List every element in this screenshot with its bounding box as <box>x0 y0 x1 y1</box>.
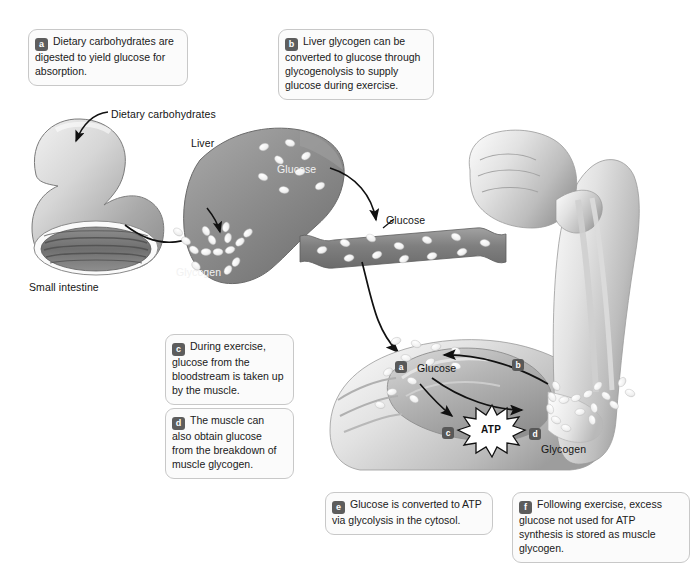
label-liver-glycogen: Glycogen <box>176 266 221 278</box>
art-marker-c[interactable]: c <box>442 427 454 439</box>
label-atp: ATP <box>481 424 501 435</box>
blood-vessel-illustration <box>300 219 506 268</box>
figure-canvas: aDietary carbohydrates are digested to y… <box>0 0 700 563</box>
art-marker-a[interactable]: a <box>395 361 407 373</box>
callout-d[interactable]: dThe muscle can also obtain glucose from… <box>165 408 294 479</box>
callout-b[interactable]: bLiver glycogen can be converted to gluc… <box>278 29 434 100</box>
callout-badge-a: a <box>35 38 48 51</box>
callout-badge-b: b <box>285 38 298 51</box>
arrow-vessel-to-muscle <box>362 262 398 352</box>
callout-f[interactable]: fFollowing exercise, excess glucose not … <box>512 492 690 563</box>
callout-text-f: Following exercise, excess glucose not u… <box>519 498 662 554</box>
label-liver-glucose: Glucose <box>277 163 316 175</box>
label-dietary-carbohydrates: Dietary carbohydrates <box>111 108 216 120</box>
callout-a[interactable]: aDietary carbohydrates are digested to y… <box>28 29 188 86</box>
art-marker-d[interactable]: d <box>529 428 541 440</box>
label-blood-glucose: Glucose <box>386 214 425 226</box>
callout-badge-d: d <box>172 417 185 430</box>
label-liver: Liver <box>191 137 214 149</box>
art-marker-b[interactable]: b <box>512 359 524 371</box>
callout-text-b: Liver glycogen can be converted to gluco… <box>285 35 420 91</box>
callout-e[interactable]: eGlucose is converted to ATP via glycoly… <box>325 492 493 535</box>
small-intestine-illustration <box>32 119 164 275</box>
callout-text-e: Glucose is converted to ATP via glycolys… <box>332 498 482 526</box>
callout-badge-e: e <box>332 501 345 514</box>
label-small-intestine: Small intestine <box>29 281 99 293</box>
callout-badge-f: f <box>519 501 532 514</box>
callout-c[interactable]: cDuring exercise, glucose from the blood… <box>165 334 294 405</box>
callout-text-a: Dietary carbohydrates are digested to yi… <box>35 35 174 77</box>
label-muscle-glycogen: Glycogen <box>541 443 586 455</box>
label-muscle-glucose: Glucose <box>417 362 456 374</box>
callout-badge-c: c <box>172 343 185 356</box>
callout-text-c: During exercise, glucose from the bloods… <box>172 340 283 396</box>
callout-text-d: The muscle can also obtain glucose from … <box>172 414 276 470</box>
